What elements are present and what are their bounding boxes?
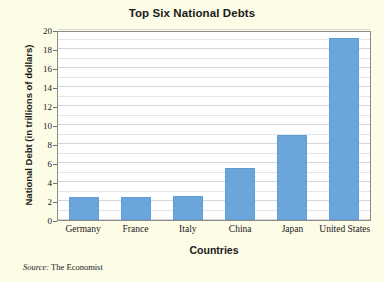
y-tick-label: 2 [48, 197, 53, 207]
x-axis-label: Countries [57, 244, 371, 256]
y-tick-label: 14 [43, 83, 52, 93]
y-axis-label-container: National Debt (in trillions of dollars) [20, 28, 36, 222]
bar-italy[interactable] [173, 196, 202, 220]
bar-china[interactable] [225, 168, 254, 220]
bar-slot [318, 32, 370, 220]
chart-title: Top Six National Debts [0, 7, 384, 19]
bar-slot [162, 32, 214, 220]
bar-slot [214, 32, 266, 220]
chart-figure: Top Six National Debts National Debt (in… [0, 0, 384, 282]
bar-series [58, 32, 370, 220]
bar-france[interactable] [121, 197, 150, 220]
source-text: The Economist [49, 262, 103, 272]
y-tick-label: 12 [43, 102, 52, 112]
gridline [58, 29, 370, 30]
source-prefix: Source: [23, 262, 49, 272]
y-tick-label: 4 [48, 178, 53, 188]
bar-slot [110, 32, 162, 220]
y-tick-label: 20 [43, 26, 52, 36]
y-tick-label: 6 [48, 159, 53, 169]
y-tick-label: 10 [43, 121, 52, 131]
y-tick-mark [53, 221, 57, 222]
y-axis-ticks: 02468101214161820 [36, 31, 57, 221]
y-tick-label: 8 [48, 140, 53, 150]
y-tick-label: 18 [43, 45, 52, 55]
source-note: Source: The Economist [23, 262, 103, 272]
bar-germany[interactable] [69, 197, 98, 220]
y-tick-label: 16 [43, 64, 52, 74]
plot-area [57, 31, 371, 221]
bar-slot [58, 32, 110, 220]
y-tick-label: 0 [48, 216, 53, 226]
bar-japan[interactable] [277, 135, 306, 221]
y-axis-label: National Debt (in trillions of dollars) [23, 45, 34, 206]
bar-united-states[interactable] [329, 38, 358, 220]
bar-slot [266, 32, 318, 220]
